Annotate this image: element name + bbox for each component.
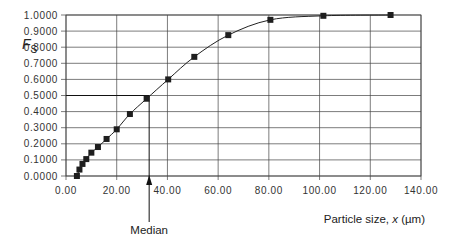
y-tick-label: 0.7000 (24, 58, 58, 69)
data-point-marker (88, 150, 94, 156)
data-point-marker (114, 126, 120, 132)
x-axis-tick-labels: 0.0020.0040.0060.0080.00100.00120.00140.… (55, 185, 438, 196)
y-tick-label: 0.4000 (24, 106, 58, 117)
data-point-marker (165, 76, 171, 82)
data-point-marker (104, 136, 110, 142)
median-arrowhead-icon (146, 175, 152, 185)
data-point-marker (267, 17, 273, 23)
median-label: Median (130, 224, 168, 236)
data-point-marker (191, 54, 197, 60)
x-tick-label: 0.00 (55, 185, 77, 196)
y-tick-label: 0.9000 (24, 26, 58, 37)
data-point-marker (74, 173, 80, 179)
y-tick-label: 0.1000 (24, 154, 58, 165)
x-tick-label: 140.00 (404, 185, 438, 196)
data-point-marker (320, 13, 326, 19)
cumulative-distribution-chart: 0.00000.10000.20000.30000.40000.50000.60… (0, 0, 451, 249)
data-point-marker (127, 111, 133, 117)
data-point-marker (225, 32, 231, 38)
data-point-marker (83, 156, 89, 162)
y-tick-label: 0.0000 (24, 171, 58, 182)
x-tick-label: 80.00 (255, 185, 283, 196)
data-point-marker (76, 167, 82, 173)
x-tick-label: 60.00 (204, 185, 232, 196)
y-tick-label: 1.0000 (24, 10, 58, 21)
x-tick-label: 40.00 (153, 185, 181, 196)
data-point-marker (144, 96, 150, 102)
median-annotation (66, 96, 152, 223)
x-axis-title: Particle size, x (µm) (324, 213, 425, 225)
y-tick-label: 0.2000 (24, 138, 58, 149)
grid-lines (61, 15, 421, 180)
y-tick-label: 0.6000 (24, 74, 58, 85)
data-point-marker (388, 12, 394, 18)
x-tick-label: 100.00 (302, 185, 336, 196)
y-tick-label: 0.3000 (24, 122, 58, 133)
x-tick-label: 20.00 (103, 185, 131, 196)
x-tick-label: 120.00 (353, 185, 387, 196)
y-tick-label: 0.5000 (24, 90, 58, 101)
data-point-marker (95, 144, 101, 150)
